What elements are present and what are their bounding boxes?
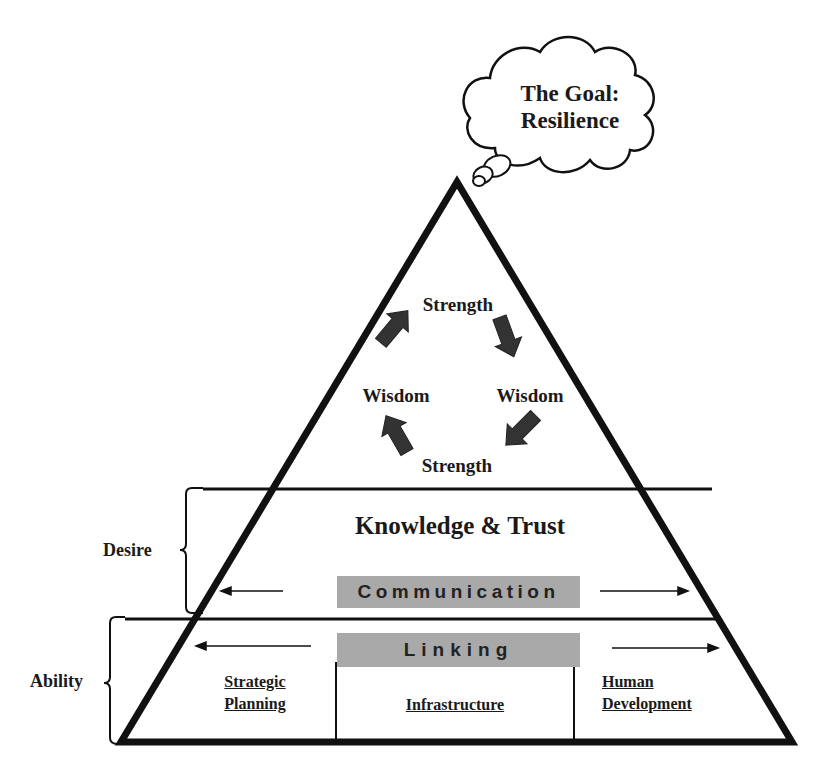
goal-line2: Resilience bbox=[510, 107, 630, 134]
ability-bracket bbox=[104, 617, 125, 744]
goal-line1: The Goal: bbox=[510, 80, 630, 107]
human-development-label: Human Development bbox=[602, 671, 722, 715]
knowledge-trust-label: Knowledge & Trust bbox=[300, 512, 620, 540]
infrastructure-label: Infrastructure bbox=[375, 694, 535, 716]
human-development-line1: Human bbox=[602, 671, 722, 693]
arrow-up-left-icon bbox=[374, 409, 419, 459]
linking-bar: Linking bbox=[337, 633, 580, 667]
cycle-wisdom-right: Wisdom bbox=[480, 385, 580, 407]
cycle-strength-top: Strength bbox=[408, 294, 508, 316]
cycle-arrows bbox=[370, 302, 545, 459]
arrow-down-left-icon bbox=[496, 406, 545, 455]
cycle-wisdom-left: Wisdom bbox=[346, 385, 446, 407]
arrow-down-right-icon bbox=[486, 313, 527, 362]
strategic-planning-label: Strategic Planning bbox=[200, 671, 310, 715]
strategic-planning-line2: Planning bbox=[200, 693, 310, 715]
desire-label: Desire bbox=[103, 540, 152, 561]
infrastructure-line1: Infrastructure bbox=[375, 694, 535, 716]
desire-bracket bbox=[180, 488, 203, 613]
thought-bubbles bbox=[471, 151, 514, 186]
communication-bar: Communication bbox=[337, 576, 580, 608]
strategic-planning-line1: Strategic bbox=[200, 671, 310, 693]
ability-label: Ability bbox=[30, 671, 83, 692]
goal-label: The Goal: Resilience bbox=[510, 80, 630, 134]
human-development-line2: Development bbox=[602, 693, 722, 715]
cycle-strength-bottom: Strength bbox=[407, 455, 507, 477]
